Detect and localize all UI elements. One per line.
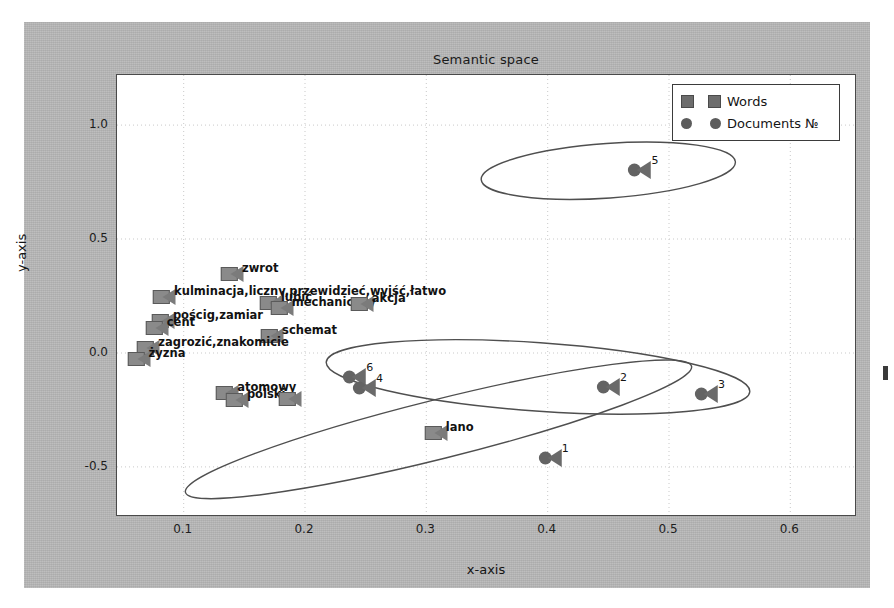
document-arrow-icon [606, 378, 620, 396]
word-arrow-icon [289, 391, 302, 407]
document-number-label: 3 [718, 378, 725, 391]
document-arrow-icon [362, 379, 376, 397]
chart-legend: Words Documents № [672, 84, 840, 141]
document-arrow-icon [637, 161, 651, 179]
x-tick-label: 0.1 [173, 522, 192, 536]
word-label: schemat [282, 323, 337, 337]
document-number-label: 4 [376, 372, 383, 385]
document-number-label: 6 [366, 361, 373, 374]
word-label: cent [167, 315, 195, 329]
word-label: akcja [372, 291, 406, 305]
x-tick-label: 0.3 [416, 522, 435, 536]
document-number-label: 1 [562, 442, 569, 455]
x-tick-label: 0.5 [658, 522, 677, 536]
legend-label-documents: Documents № [727, 116, 819, 131]
y-tick-label: 0.0 [76, 345, 108, 359]
chart-title: Semantic space [116, 52, 856, 67]
circle-marker-icon [681, 118, 692, 129]
y-tick-label: -0.5 [76, 459, 108, 473]
word-label: zwrot [242, 261, 278, 275]
y-tick-label: 0.5 [76, 231, 108, 245]
legend-label-words: Words [727, 94, 767, 109]
legend-item-words: Words [681, 90, 831, 112]
y-axis-title: y-axis [14, 234, 29, 272]
word-label: żyzna [149, 346, 186, 360]
x-tick-label: 0.6 [780, 522, 799, 536]
word-label: lano [446, 420, 474, 434]
plot-inner: zwrotkulminacja,liczny,przewidzieć,wyjść… [117, 75, 855, 515]
legend-item-documents: Documents № [681, 112, 831, 134]
document-arrow-icon [547, 449, 561, 467]
legend-marker-words [681, 95, 727, 108]
document-number-label: 2 [620, 371, 627, 384]
x-axis-title: x-axis [116, 562, 856, 577]
x-tick-label: 0.2 [294, 522, 313, 536]
document-arrow-icon [704, 385, 718, 403]
y-tick-label: 1.0 [76, 117, 108, 131]
screenshot-root: Semantic space y-axis x-axis zwrotkulmin… [0, 0, 894, 608]
scan-artifact-mark [883, 366, 888, 380]
legend-marker-documents [681, 118, 727, 129]
circle-marker-icon [710, 118, 721, 129]
document-number-label: 5 [651, 154, 658, 167]
x-tick-label: 0.4 [537, 522, 556, 536]
square-marker-icon [681, 95, 694, 108]
square-marker-icon [708, 95, 721, 108]
